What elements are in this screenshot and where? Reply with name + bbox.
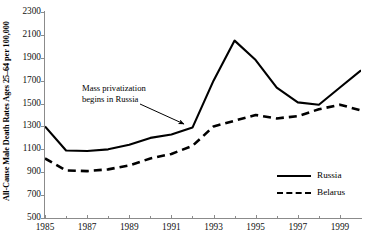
x-axis-tick-label: 1991 [151, 222, 191, 232]
y-axis-tick-label: 900 [0, 166, 45, 178]
y-axis-tick-label: 2100 [0, 29, 45, 41]
x-axis-tick-label: 1985 [25, 222, 65, 232]
x-axis-tick-label: 1997 [278, 222, 318, 232]
chart-figure: All-Cause Male Death Rates Ages 25–64 pe… [0, 0, 372, 245]
annotation-mass-privatization: Mass privatization begins in Russia [82, 83, 190, 104]
x-axis-tick-label: 1989 [109, 222, 149, 232]
y-axis-tick-label: 1300 [0, 120, 45, 132]
legend-label-russia: Russia [317, 168, 342, 183]
legend-item-belarus: Belarus [277, 185, 367, 202]
series-line-belarus [45, 105, 361, 171]
legend-item-russia: Russia [277, 168, 367, 185]
annotation-line-2: begins in Russia [82, 94, 190, 105]
x-axis-tick-label: 1987 [67, 222, 107, 232]
annotation-line-1: Mass privatization [82, 83, 190, 94]
y-axis-tick-label: 1500 [0, 98, 45, 110]
x-axis-tick-label: 1993 [194, 222, 234, 232]
y-axis-tick-label: 700 [0, 189, 45, 201]
legend-swatch-solid-icon [277, 175, 311, 177]
x-axis-line [44, 218, 362, 219]
y-axis-tick-label: 1900 [0, 52, 45, 64]
legend-swatch-dashed-icon [277, 192, 311, 194]
x-axis-tick-label: 1995 [236, 222, 276, 232]
y-axis-tick-label: 1700 [0, 75, 45, 87]
y-axis-tick-label: 2300 [0, 6, 45, 18]
legend-label-belarus: Belarus [317, 185, 345, 200]
legend: Russia Belarus [277, 168, 367, 202]
y-axis-tick-label: 1100 [0, 143, 45, 155]
x-axis-tick-label: 1999 [320, 222, 360, 232]
